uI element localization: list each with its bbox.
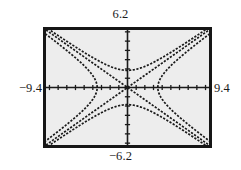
origin-point (126, 86, 130, 90)
calculator-screenshot: 6.2 −6.2 −9.4 9.4 (0, 0, 241, 170)
y-min-label: −6.2 (0, 150, 241, 163)
x-max-label: 9.4 (214, 82, 241, 95)
y-max-label: 6.2 (0, 8, 241, 21)
graph-screen (43, 27, 212, 148)
hyperbola-plot (46, 30, 209, 145)
x-min-label: −9.4 (2, 82, 42, 95)
